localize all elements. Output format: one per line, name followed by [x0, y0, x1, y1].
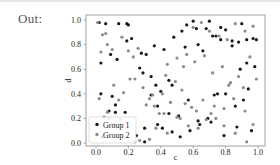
data-point-group-1	[188, 129, 191, 132]
data-point-group-2	[98, 97, 101, 100]
data-point-group-1	[145, 53, 148, 56]
legend: Group 1 Group 2	[89, 117, 136, 143]
data-point-group-1	[184, 46, 187, 49]
data-point-group-1	[156, 123, 159, 126]
data-point-group-2	[209, 112, 212, 115]
data-point-group-1	[219, 38, 222, 41]
data-point-group-1	[211, 34, 214, 37]
legend-marker-group-2	[95, 133, 98, 136]
data-point-group-1	[250, 129, 253, 132]
x-tick-label: 0.4	[156, 148, 166, 157]
data-point-group-1	[114, 103, 117, 106]
data-point-group-1	[222, 134, 225, 137]
data-point-group-1	[242, 98, 245, 101]
data-point-group-1	[231, 39, 234, 42]
data-point-group-1	[213, 93, 216, 96]
data-point-group-1	[172, 36, 175, 39]
data-point-group-2	[175, 116, 178, 119]
data-point-group-2	[242, 86, 245, 89]
y-axis-label: d	[64, 79, 73, 83]
data-point-group-1	[235, 125, 238, 128]
data-point-group-1	[247, 87, 250, 90]
data-point-group-1	[156, 105, 159, 108]
data-point-group-1	[114, 111, 117, 114]
data-point-group-1	[187, 98, 190, 101]
data-point-group-1	[116, 58, 119, 61]
y-tick-label: 0.4	[71, 90, 81, 99]
data-point-group-2	[237, 75, 240, 78]
legend-marker-group-1	[95, 123, 98, 126]
data-point-group-1	[138, 66, 141, 69]
y-tick-label: 0.2	[71, 114, 81, 123]
data-point-group-1	[99, 92, 102, 95]
data-point-group-1	[245, 38, 248, 41]
x-tick-label: 0.0	[91, 148, 101, 157]
data-point-group-2	[252, 123, 255, 126]
data-point-group-1	[161, 127, 164, 130]
data-point-group-1	[245, 61, 248, 64]
data-point-group-1	[150, 75, 153, 78]
x-axis-label: c	[174, 153, 178, 162]
data-point-group-1	[171, 130, 174, 133]
data-point-group-1	[141, 71, 144, 74]
data-point-group-2	[205, 118, 208, 121]
data-point-group-2	[133, 77, 136, 80]
data-point-group-1	[185, 23, 188, 26]
data-point-group-1	[197, 119, 200, 122]
data-point-group-2	[245, 140, 248, 143]
data-point-group-2	[101, 33, 104, 36]
data-point-group-2	[203, 54, 206, 57]
data-point-group-1	[125, 39, 128, 42]
data-point-group-1	[224, 92, 227, 95]
data-point-group-2	[226, 38, 229, 41]
data-point-group-2	[221, 65, 224, 68]
data-point-group-2	[138, 139, 141, 142]
data-point-group-1	[192, 20, 195, 23]
data-point-group-2	[145, 103, 148, 106]
data-point-group-2	[166, 63, 169, 66]
y-tick-label: 1.0	[71, 16, 81, 25]
data-point-group-1	[239, 68, 242, 71]
data-point-group-2	[175, 57, 178, 60]
data-point-group-1	[124, 111, 127, 114]
data-point-group-1	[143, 140, 146, 143]
data-point-group-2	[112, 84, 115, 87]
data-point-group-2	[122, 91, 125, 94]
data-point-group-2	[166, 132, 169, 135]
data-point-group-1	[197, 43, 200, 46]
scatter-chart: 0.00.20.40.60.81.0 0.00.20.40.60.81.0 c …	[0, 0, 280, 165]
data-point-group-2	[201, 98, 204, 101]
data-point-group-2	[137, 47, 140, 50]
y-axis-ticks: 0.00.20.40.60.81.0	[71, 16, 86, 148]
data-point-group-1	[162, 48, 165, 51]
data-point-group-2	[148, 138, 151, 141]
data-point-group-2	[179, 117, 182, 120]
legend-label-group-2: Group 2	[103, 131, 129, 140]
data-point-group-2	[208, 30, 211, 33]
x-tick-label: 0.2	[123, 148, 133, 157]
data-point-group-1	[167, 79, 170, 82]
data-point-group-2	[243, 109, 246, 112]
data-point-group-2	[193, 60, 196, 63]
data-point-group-1	[104, 22, 107, 25]
x-tick-label: 0.8	[221, 148, 231, 157]
y-tick-label: 0.0	[71, 139, 81, 148]
data-point-group-2	[161, 92, 164, 95]
data-point-group-2	[174, 80, 177, 83]
data-point-group-2	[222, 124, 225, 127]
data-point-group-1	[237, 41, 240, 44]
x-tick-label: 0.6	[188, 148, 198, 157]
data-point-group-2	[111, 48, 114, 51]
data-point-group-2	[211, 71, 214, 74]
data-point-group-1	[117, 22, 120, 25]
data-point-group-1	[143, 127, 146, 130]
data-point-group-1	[171, 84, 174, 87]
data-point-group-2	[255, 77, 258, 80]
data-point-group-2	[127, 49, 130, 52]
data-point-group-2	[184, 102, 187, 105]
data-point-group-1	[252, 37, 255, 40]
data-point-group-2	[234, 22, 237, 25]
data-point-group-1	[224, 28, 227, 31]
data-point-group-1	[180, 30, 183, 33]
data-point-group-2	[158, 112, 161, 115]
